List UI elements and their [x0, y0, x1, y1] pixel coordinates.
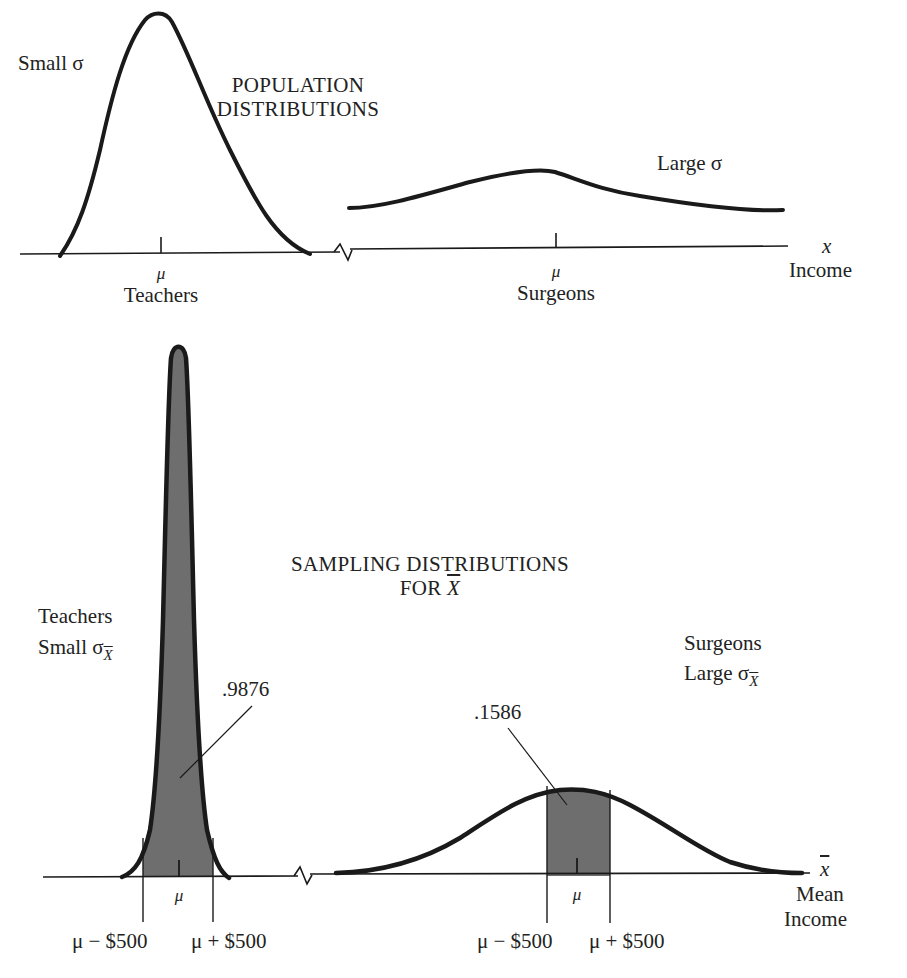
surgeons-population-curve [349, 170, 783, 210]
teachers-group-label: Teachers [124, 283, 198, 307]
population-x-variable: x [822, 234, 831, 258]
surgeons-sampling-group-label: Surgeons [684, 631, 762, 655]
surgeons-large-sigma-label: Large σ [657, 151, 722, 175]
population-x-axis-left [20, 252, 340, 254]
teachers-small-sigma-label: Small σ [18, 51, 84, 75]
sampling-x-axis-label-line1: Mean [796, 882, 844, 906]
teachers-lower-bound-label: μ − $500 [72, 929, 148, 953]
teachers-small-sigma-xbar-label: Small σX [38, 635, 113, 661]
diagram-canvas [0, 0, 907, 978]
teachers-probability-label: .9876 [222, 677, 269, 701]
sampling-x-axis-left [43, 876, 298, 877]
surgeons-shaded-area [547, 790, 610, 877]
sampling-title: SAMPLING DISTRIBUTIONS FOR X [291, 552, 569, 600]
sampling-x-axis-label-line2: Income [784, 907, 847, 931]
teachers-sampling-group-label: Teachers [38, 604, 112, 628]
teachers-upper-bound-label: μ + $500 [191, 929, 267, 953]
surgeons-lower-bound-label: μ − $500 [477, 929, 553, 953]
surgeons-sampling-mu-label: μ [573, 883, 582, 907]
sampling-x-variable: x [820, 857, 829, 881]
teachers-population-curve [60, 14, 310, 257]
teachers-sampling-mu-label: μ [175, 884, 184, 908]
surgeons-group-label: Surgeons [517, 281, 595, 305]
population-title: POPULATION DISTRIBUTIONS [217, 73, 380, 121]
population-x-axis-label: Income [789, 258, 852, 282]
sampling-x-axis-right [310, 873, 810, 874]
population-x-axis-right [350, 246, 788, 249]
surgeons-probability-label: .1586 [474, 700, 521, 724]
surgeons-upper-bound-label: μ + $500 [589, 929, 665, 953]
surgeons-large-sigma-xbar-label: Large σX [684, 661, 758, 687]
